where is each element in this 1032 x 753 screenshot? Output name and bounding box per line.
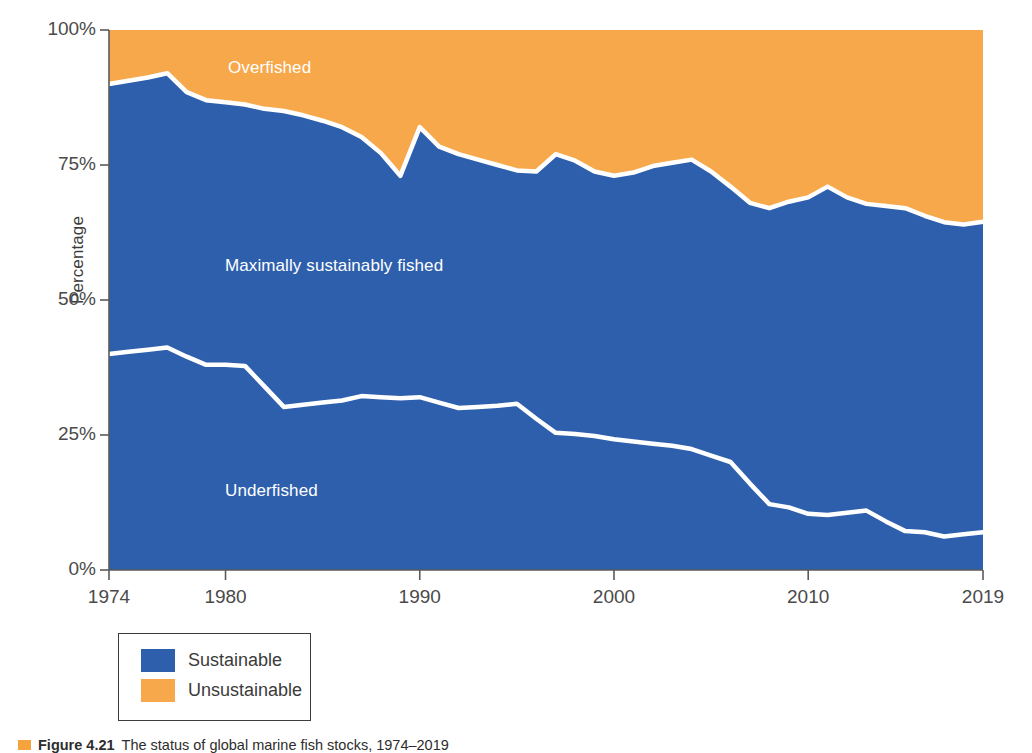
legend-item-sustainable: Sustainable xyxy=(141,645,310,675)
figure-caption: Figure 4.21 The status of global marine … xyxy=(18,737,1022,753)
figure-number: Figure 4.21 xyxy=(38,737,115,753)
y-axis-tick-labels: 100%75%50%25%0% xyxy=(22,0,96,600)
x-tick-label-1974: 1974 xyxy=(88,586,130,608)
legend-label-sustainable: Sustainable xyxy=(188,651,282,669)
y-tick-label-50pct: 50% xyxy=(26,289,96,308)
x-tick-label-2019: 2019 xyxy=(962,586,1004,608)
y-tick-label-25pct: 25% xyxy=(26,424,96,443)
legend-label-unsustainable: Unsustainable xyxy=(188,681,302,699)
series-label-overfished: Overfished xyxy=(228,58,311,78)
x-tick-label-1980: 1980 xyxy=(204,586,246,608)
chart-plot-area: Percentage 100%75%50%25%0% 1974198019902… xyxy=(0,0,1032,600)
y-tick-label-100pct: 100% xyxy=(26,19,96,38)
x-tick-label-1990: 1990 xyxy=(399,586,441,608)
stacked-area-chart xyxy=(0,0,1032,600)
legend-swatch-unsustainable xyxy=(141,679,175,702)
y-tick-label-0pct: 0% xyxy=(26,559,96,578)
x-tick-label-2000: 2000 xyxy=(593,586,635,608)
figure-caption-text: The status of global marine fish stocks,… xyxy=(122,737,449,753)
chart-legend: Sustainable Unsustainable xyxy=(118,633,311,721)
legend-swatch-sustainable xyxy=(141,649,175,672)
y-tick-label-75pct: 75% xyxy=(26,154,96,173)
caption-marker-icon xyxy=(18,740,31,750)
legend-item-unsustainable: Unsustainable xyxy=(141,675,310,705)
x-tick-label-2010: 2010 xyxy=(787,586,829,608)
series-label-maximally-sustainably-fished: Maximally sustainably fished xyxy=(225,256,443,276)
series-label-underfished: Underfished xyxy=(225,481,318,501)
